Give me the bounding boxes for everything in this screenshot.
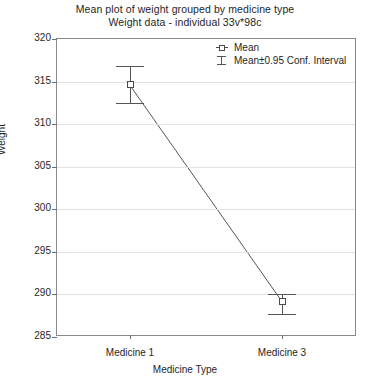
y-axis-tick [52,167,57,168]
gridline [57,82,355,83]
chart-subtitle: Weight data - individual 33v*98c [0,16,370,29]
error-bar-cap-upper [116,66,144,67]
y-axis-tick-label: 300 [5,202,51,213]
x-axis-tick [130,335,131,339]
y-axis-tick [52,39,57,40]
x-axis-label: Medicine Type [0,364,370,375]
mean-marker-icon [216,41,232,54]
y-axis-tick-label: 320 [5,32,51,43]
error-bar-cap-lower [268,314,296,315]
legend-label-mean: Mean [232,42,259,53]
y-axis-tick-label: 315 [5,75,51,86]
x-axis-tick [282,335,283,339]
chart-title: Mean plot of weight grouped by medicine … [0,3,370,16]
y-axis-tick [52,252,57,253]
error-bar-icon [216,54,232,67]
gridline [57,124,355,125]
legend-label-confidence-interval: Mean±0.95 Conf. Interval [232,55,346,66]
y-axis-tick [52,209,57,210]
y-axis-tick [52,337,57,338]
x-axis-tick-label: Medicine 3 [222,347,342,358]
y-axis-tick [52,82,57,83]
y-axis-tick-label: 290 [5,287,51,298]
mean-plot-figure: Mean plot of weight grouped by medicine … [0,0,370,388]
legend-item-mean: Mean [216,41,346,54]
series-connector-line [57,39,355,335]
y-axis-tick [52,124,57,125]
y-axis-tick-label: 305 [5,160,51,171]
plot-area: 285290295300305310315320Medicine 1Medici… [56,38,356,336]
mean-data-point [127,81,134,88]
x-axis-tick-label: Medicine 1 [70,347,190,358]
y-axis-tick-label: 310 [5,117,51,128]
error-bar-cap-upper [268,294,296,295]
mean-data-point [279,298,286,305]
legend-item-confidence-interval: Mean±0.95 Conf. Interval [216,54,346,67]
y-axis-tick-label: 295 [5,245,51,256]
y-axis-tick [52,294,57,295]
gridline [57,209,355,210]
gridline [57,252,355,253]
y-axis-label: Weight [0,124,7,155]
legend: Mean Mean±0.95 Conf. Interval [216,41,346,67]
gridline [57,167,355,168]
error-bar-cap-lower [116,103,144,104]
y-axis-tick-label: 285 [5,330,51,341]
gridline [57,294,355,295]
chart-title-block: Mean plot of weight grouped by medicine … [0,3,370,29]
